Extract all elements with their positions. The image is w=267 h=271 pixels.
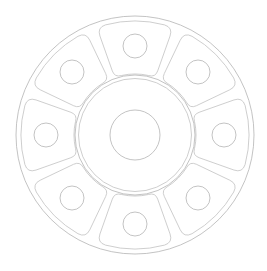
hub-outer-circle [75,75,195,195]
bolt-hole-circle [186,60,210,84]
bolt-hole-circle [123,212,147,236]
outer-rim-circle [16,16,254,254]
bolt-hole-circle [123,34,147,58]
bolt-hole-circle [34,123,58,147]
center-bore-layer [110,110,160,160]
spoke-sector [35,35,107,107]
bolt-hole-circle [60,186,84,210]
center-bore-circle [110,110,160,160]
outer-rim-layer [16,16,254,254]
bolt-hole-circle [186,186,210,210]
hub-inner-circle [79,79,192,192]
flange-hub-drawing [0,0,267,271]
spoke-sector [99,194,171,249]
spoke-sector [35,163,107,235]
bolt-hole-circle [60,60,84,84]
spoke-sector [194,99,249,171]
bolt-hole-layer [34,34,236,236]
spoke-sector-layer [21,21,249,249]
spoke-sector [163,163,235,235]
hub-ring-layer [75,75,195,195]
spoke-sector [21,99,76,171]
cad-drawing-canvas [0,0,267,271]
spoke-sector [99,21,171,76]
bolt-hole-circle [212,123,236,147]
spoke-sector [163,35,235,107]
